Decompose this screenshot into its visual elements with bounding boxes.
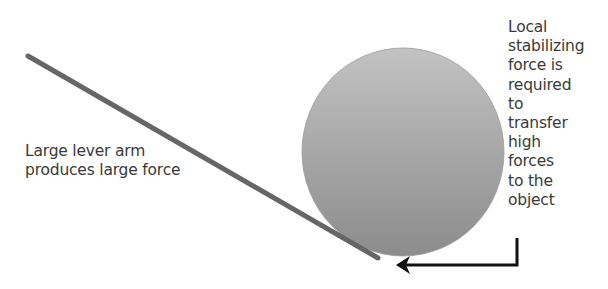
stabilizing-label-line: stabilizing xyxy=(508,37,584,56)
stabilizing-label-line: Local xyxy=(508,18,584,37)
stabilizing-label-line: force is xyxy=(508,56,584,75)
lever-arm-label: Large lever arm produces large force xyxy=(25,142,180,180)
stabilizing-label-line: to xyxy=(508,95,584,114)
stabilizing-label-line: required xyxy=(508,76,584,95)
stabilizing-label-line: object xyxy=(508,191,584,210)
stabilizing-label-line: to the xyxy=(508,172,584,191)
object-circle xyxy=(302,48,504,256)
lever-label-line: Large lever arm xyxy=(25,142,180,161)
lever-label-line: produces large force xyxy=(25,161,180,180)
stabilizing-label-line: transfer xyxy=(508,114,584,133)
stabilizing-force-label: Local stabilizing force is required to t… xyxy=(508,18,584,210)
stabilizing-label-line: forces xyxy=(508,152,584,171)
stabilizing-label-line: high xyxy=(508,133,584,152)
